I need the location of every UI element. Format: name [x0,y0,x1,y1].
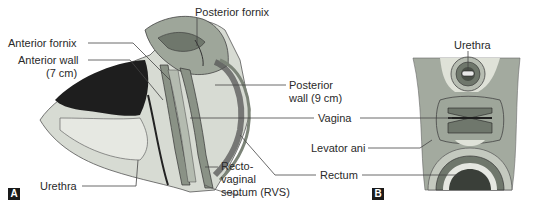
panel-tag-a: A [8,188,20,200]
label-vagina: Vagina [318,112,351,124]
label-posterior-wall: Posterior [289,79,333,91]
label-posterior-fornix: Posterior fornix [195,6,269,18]
label-rectum: Rectum [320,169,358,181]
label-levator-ani: Levator ani [311,142,365,154]
label-rvs-line1: Recto- [221,160,253,172]
label-rvs-line2: vaginal [221,173,256,185]
label-urethra-b: Urethra [454,39,491,51]
label-anterior-fornix: Anterior fornix [8,37,76,49]
panel-b-illustration [413,57,520,190]
label-urethra-a: Urethra [40,180,77,192]
panel-tag-b: B [372,188,384,200]
label-rvs-line3: septum (RVS) [221,186,290,198]
label-posterior-wall-length: wall (9 cm) [289,92,342,104]
label-anterior-wall: Anterior wall [18,54,79,66]
label-anterior-wall-length: (7 cm) [46,67,77,79]
anatomy-diagram [0,0,545,210]
